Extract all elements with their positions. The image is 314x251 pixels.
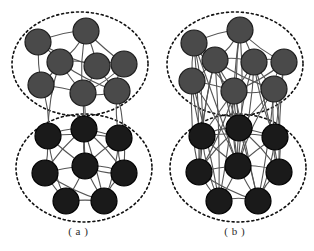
graph-node[interactable] <box>241 49 267 75</box>
graph-node[interactable] <box>106 125 132 151</box>
graph-node[interactable] <box>261 76 287 102</box>
graph-node[interactable] <box>32 160 58 186</box>
graph-node[interactable] <box>73 18 99 44</box>
panel-a-caption: ( a ) <box>0 225 157 237</box>
graph-node[interactable] <box>53 188 79 214</box>
graph-node[interactable] <box>266 159 292 185</box>
graph-node[interactable] <box>227 17 253 43</box>
graph-node[interactable] <box>181 30 207 56</box>
graph-node[interactable] <box>202 47 228 73</box>
figure-container: ( a ) ( b ) <box>0 0 313 251</box>
graph-node[interactable] <box>189 123 215 149</box>
panel-b-caption: ( b ) <box>157 225 314 237</box>
graph-node[interactable] <box>84 53 110 79</box>
graph-node[interactable] <box>28 72 54 98</box>
graph-node[interactable] <box>111 51 137 77</box>
graph-node[interactable] <box>104 78 130 104</box>
graph-node[interactable] <box>221 78 247 104</box>
graph-node[interactable] <box>72 153 98 179</box>
graph-node[interactable] <box>111 160 137 186</box>
graph-node[interactable] <box>245 188 271 214</box>
graph-node[interactable] <box>70 80 96 106</box>
graph-node[interactable] <box>206 188 232 214</box>
caption-row: ( a ) ( b ) <box>0 225 313 237</box>
graph-node[interactable] <box>25 29 51 55</box>
graph-node[interactable] <box>71 116 97 142</box>
graph-node[interactable] <box>47 49 73 75</box>
graph-node[interactable] <box>35 123 61 149</box>
graph-node[interactable] <box>225 153 251 179</box>
graph-node[interactable] <box>271 49 297 75</box>
graph-node[interactable] <box>262 124 288 150</box>
graph-node[interactable] <box>226 115 252 141</box>
graph-node[interactable] <box>186 159 212 185</box>
graph-node[interactable] <box>91 188 117 214</box>
network-diagram-svg <box>0 0 313 251</box>
graph-node[interactable] <box>179 68 205 94</box>
